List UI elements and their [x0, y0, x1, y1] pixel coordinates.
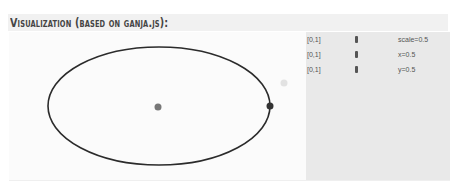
- control-row-x: [0,1] x=0.5: [306, 47, 450, 62]
- slider-thumb[interactable]: [355, 36, 358, 43]
- range-label: [0,1]: [307, 47, 321, 62]
- control-row-y: [0,1] y=0.5: [306, 62, 450, 77]
- faint-point[interactable]: [281, 80, 288, 87]
- range-label: [0,1]: [307, 62, 321, 77]
- center-point[interactable]: [155, 104, 162, 111]
- controls-panel: [0,1] scale=0.5 [0,1] x=0.5 [0,1] y=0.5: [306, 32, 450, 180]
- section-heading: Visualization (based on ganja.js):: [8, 14, 448, 31]
- ganja-graph[interactable]: [9, 32, 306, 180]
- visualization-canvas[interactable]: [9, 32, 306, 180]
- y-slider[interactable]: [332, 66, 392, 73]
- value-label: x=0.5: [398, 47, 415, 62]
- range-label: [0,1]: [307, 32, 321, 47]
- x-slider[interactable]: [332, 51, 392, 58]
- value-label: y=0.5: [398, 62, 415, 77]
- control-row-scale: [0,1] scale=0.5: [306, 32, 450, 47]
- slider-thumb[interactable]: [355, 66, 358, 73]
- heading-title: Visualization (based on ganja.js):: [10, 14, 168, 31]
- slider-thumb[interactable]: [355, 51, 358, 58]
- scale-slider[interactable]: [332, 36, 392, 43]
- ellipse-point[interactable]: [267, 103, 274, 110]
- value-label: scale=0.5: [398, 32, 428, 47]
